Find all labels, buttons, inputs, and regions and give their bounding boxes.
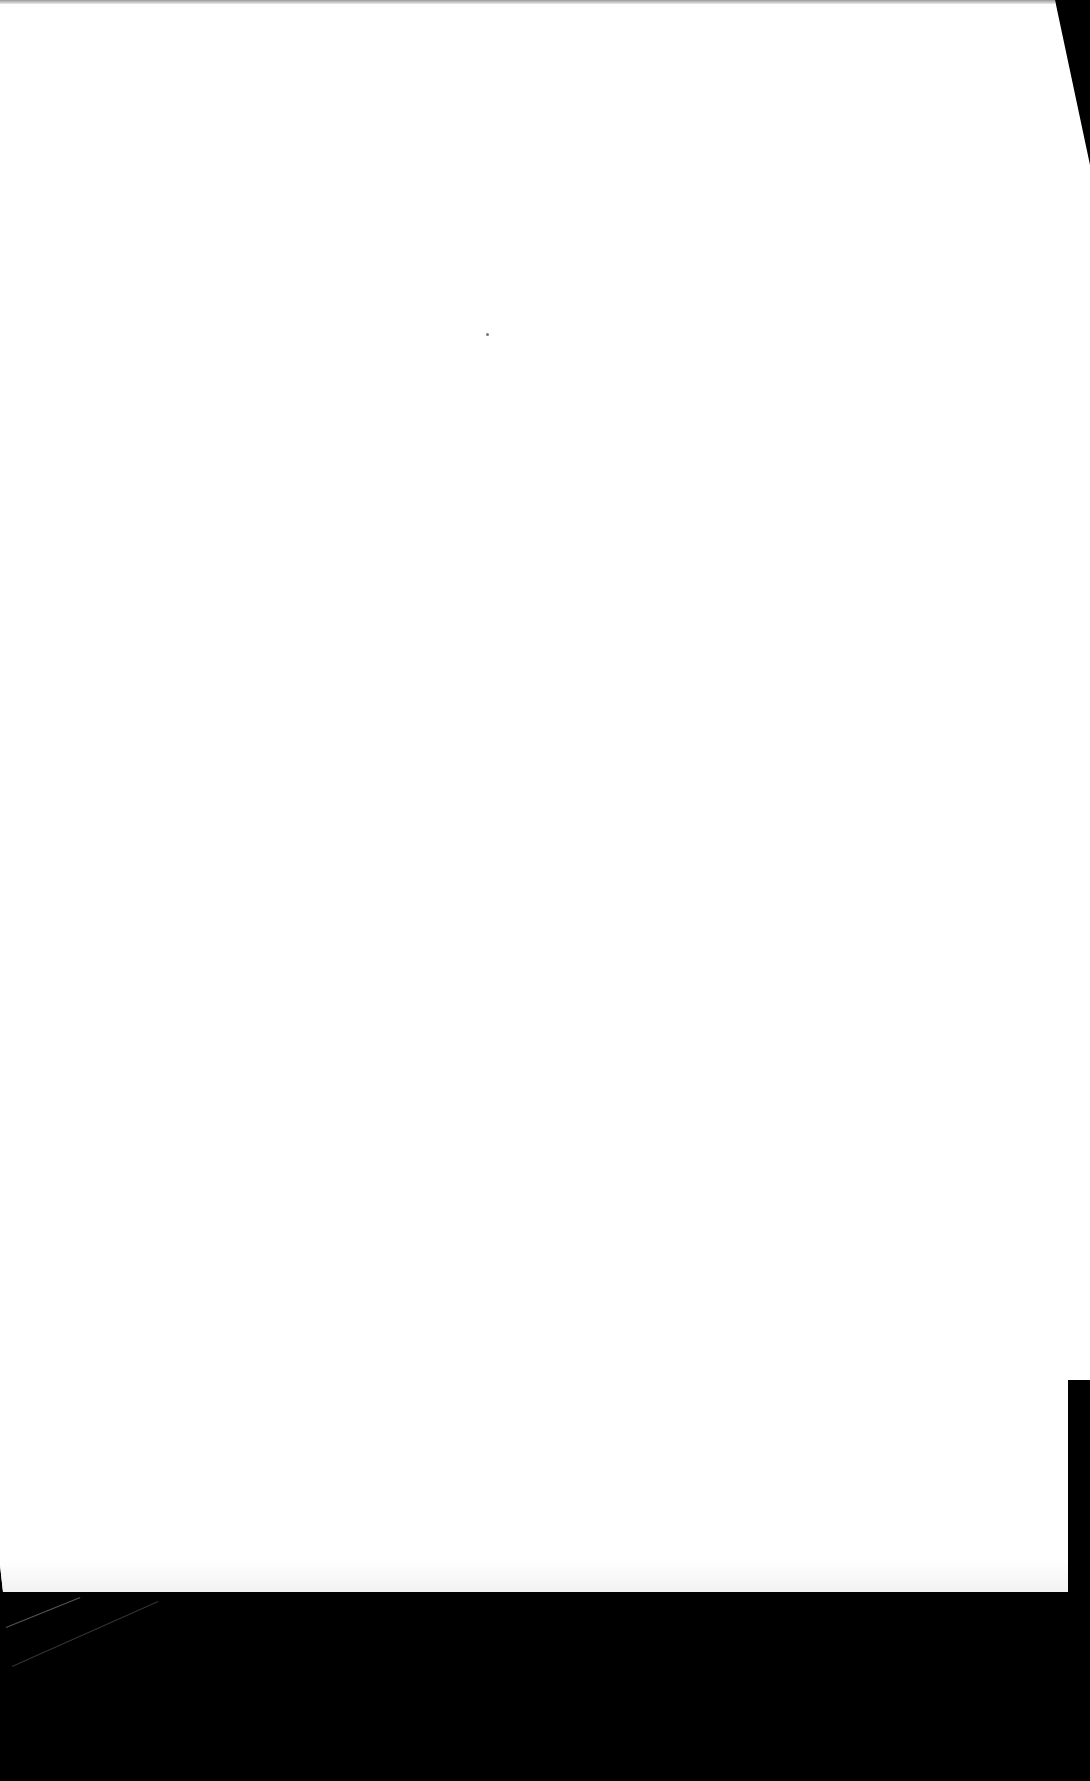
scan-background bbox=[0, 0, 1090, 1781]
page-bottom-edge bbox=[0, 1560, 1068, 1592]
scanner-scratch bbox=[12, 1601, 159, 1667]
dust-speck bbox=[486, 333, 489, 336]
scanner-scratch bbox=[6, 1597, 81, 1628]
blank-page bbox=[0, 0, 1090, 1600]
page-top-edge-shadow bbox=[0, 0, 1055, 4]
